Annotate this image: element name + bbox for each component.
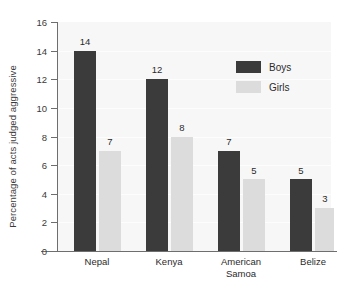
- y-tick-label: 10: [7, 102, 47, 113]
- legend-label-girls: Girls: [269, 82, 290, 93]
- bar-girls-kenya: [171, 137, 193, 252]
- gridline: [57, 51, 331, 52]
- bar-value-label: 5: [251, 165, 256, 176]
- legend-swatch-boys-icon: [236, 61, 261, 73]
- x-axis-line: [41, 251, 337, 252]
- y-tick-mark: [51, 108, 57, 109]
- bar-girls-nepal: [99, 151, 121, 251]
- y-tick-label: 2: [7, 217, 47, 228]
- y-tick-label: 8: [7, 131, 47, 142]
- bar-boys-nepal: [74, 51, 96, 251]
- y-tick-label: 0: [7, 246, 47, 257]
- y-tick-label: 12: [7, 74, 47, 85]
- x-tick-label-line: Nepal: [85, 256, 110, 268]
- x-tick-label-american-samoa: American Samoa: [221, 256, 261, 279]
- x-tick-label-line: Kenya: [156, 256, 183, 268]
- y-tick-mark: [51, 251, 57, 252]
- bar-boys-belize: [290, 179, 312, 251]
- bar-girls-belize: [315, 208, 334, 251]
- legend-item-boys: Boys: [236, 57, 291, 77]
- y-tick-mark: [51, 222, 57, 223]
- y-tick-mark: [51, 51, 57, 52]
- legend-label-boys: Boys: [269, 62, 291, 73]
- bar-value-label: 7: [107, 136, 112, 147]
- legend: Boys Girls: [236, 57, 291, 97]
- x-tick-label-kenya: Kenya: [156, 256, 183, 268]
- x-tick-label-nepal: Nepal: [85, 256, 110, 268]
- x-tick-label-line: Belize: [300, 256, 326, 268]
- bar-value-label: 8: [179, 122, 184, 133]
- legend-swatch-girls-icon: [236, 81, 261, 93]
- y-tick-mark: [51, 194, 57, 195]
- bar-boys-kenya: [146, 79, 168, 251]
- y-tick-mark: [51, 137, 57, 138]
- bar-value-label: 14: [80, 36, 91, 47]
- y-tick-label: 14: [7, 45, 47, 56]
- bar-girls-american-samoa: [243, 179, 265, 251]
- x-tick-label-line: American: [221, 256, 261, 268]
- bar-value-label: 3: [322, 193, 327, 204]
- y-tick-mark: [51, 165, 57, 166]
- bar-value-label: 12: [152, 64, 163, 75]
- y-tick-label: 6: [7, 160, 47, 171]
- gridline: [57, 137, 331, 138]
- bar-boys-american-samoa: [218, 151, 240, 251]
- bar-value-label: 7: [226, 136, 231, 147]
- bar-value-label: 5: [298, 165, 303, 176]
- y-axis-line: [57, 22, 58, 252]
- gridline: [57, 108, 331, 109]
- y-tick-label: 16: [7, 17, 47, 28]
- x-tick-label-belize: Belize: [300, 256, 326, 268]
- bar-chart: Percentage of acts judged aggressive 0 2…: [0, 0, 347, 293]
- y-tick-label: 4: [7, 188, 47, 199]
- y-tick-mark: [51, 79, 57, 80]
- y-tick-mark: [51, 22, 57, 23]
- x-tick-label-line: Samoa: [221, 268, 261, 280]
- legend-item-girls: Girls: [236, 77, 291, 97]
